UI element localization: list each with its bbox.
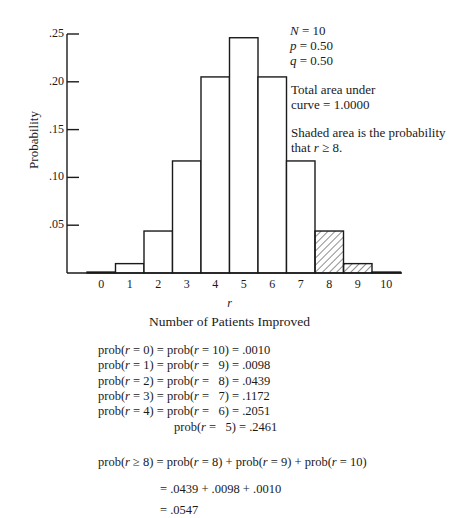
annotation-p: p = 0.50	[290, 38, 333, 53]
sum-result: = .0547	[160, 503, 198, 518]
annotation-q: q = 0.50	[290, 53, 333, 68]
x-tick-label: 4	[201, 277, 230, 292]
annotation-total-area-1: Total area under	[291, 82, 375, 97]
x-tick-label: 6	[258, 277, 287, 292]
bar-r-3	[173, 161, 202, 273]
equation-row: prob(r = 5) = .2461	[174, 420, 277, 435]
bar-r-8	[315, 231, 344, 273]
y-tick-label: .20	[30, 74, 64, 89]
x-tick-label: 9	[344, 277, 373, 292]
x-tick-label: 5	[230, 277, 259, 292]
annotation-shaded-1: Shaded area is the probability	[291, 125, 446, 140]
y-tick-label: .15	[30, 122, 64, 137]
x-tick-label: 8	[315, 277, 344, 292]
y-tick-label: .25	[30, 26, 64, 41]
x-tick-label: 3	[173, 277, 202, 292]
bar-r-9	[344, 264, 373, 273]
bar-r-7	[287, 161, 316, 273]
equation-row: prob(r = 2) = prob(r = 8) = .0439	[98, 374, 270, 389]
equation-row: prob(r = 3) = prob(r = 7) = .1172	[98, 389, 270, 404]
x-axis-label: Number of Patients Improved	[0, 314, 449, 330]
x-tick-label: 10	[372, 277, 401, 292]
y-tick-label: .10	[30, 169, 64, 184]
x-tick-label: 1	[116, 277, 145, 292]
equation-row: prob(r = 0) = prob(r = 10) = .0010	[98, 343, 270, 358]
bar-r-4	[201, 77, 230, 273]
x-tick-label: 0	[87, 277, 116, 292]
equation-row: prob(r = 4) = prob(r = 6) = .2051	[98, 404, 270, 419]
x-axis-variable: r	[0, 296, 449, 311]
annotation-shaded-2: that r ≥ 8.	[291, 140, 342, 155]
histogram-chart	[0, 0, 449, 300]
y-tick-label: .05	[30, 217, 64, 232]
x-tick-label: 2	[144, 277, 173, 292]
annotation-total-area-2: curve = 1.0000	[291, 97, 369, 112]
sum-values: = .0439 + .0098 + .0010	[160, 482, 281, 497]
bar-r-5	[230, 38, 259, 273]
x-tick-label: 7	[287, 277, 316, 292]
equation-row: prob(r = 1) = prob(r = 9) = .0098	[98, 358, 270, 373]
bar-r-6	[258, 77, 287, 273]
bar-r-2	[144, 231, 173, 273]
y-axis-label: Probability	[26, 110, 46, 170]
sum-equation: prob(r ≥ 8) = prob(r = 8) + prob(r = 9) …	[98, 455, 367, 470]
bar-r-1	[116, 264, 145, 273]
annotation-n: N = 10	[290, 23, 326, 38]
